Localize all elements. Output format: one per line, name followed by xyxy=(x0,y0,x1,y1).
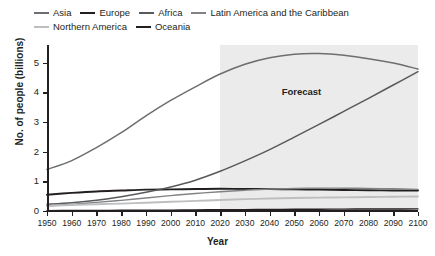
x-tick-2020 xyxy=(220,212,221,216)
series-lines xyxy=(47,45,418,211)
legend-label: Africa xyxy=(158,8,182,18)
series-line-europe xyxy=(47,189,418,195)
x-tick-2040 xyxy=(270,212,271,216)
legend-swatch-icon xyxy=(34,26,49,28)
y-tick-2 xyxy=(43,152,47,153)
legend-row-2: Northern AmericaOceania xyxy=(34,20,434,34)
x-tick-2000 xyxy=(171,212,172,216)
x-tick-label-2100: 2100 xyxy=(401,219,435,228)
x-tick-2010 xyxy=(195,212,196,216)
y-tick-4 xyxy=(43,92,47,93)
legend-item-northern-america[interactable]: Northern America xyxy=(34,22,127,32)
plot-area: Forecast xyxy=(47,45,418,211)
legend-item-latin-america-and-the-caribbean[interactable]: Latin America and the Caribbean xyxy=(191,8,348,18)
series-line-africa xyxy=(47,72,418,205)
legend-item-europe[interactable]: Europe xyxy=(80,8,130,18)
x-axis-line xyxy=(47,210,418,212)
legend-item-asia[interactable]: Asia xyxy=(34,8,71,18)
x-tick-1980 xyxy=(121,212,122,216)
legend-label: Oceania xyxy=(155,22,190,32)
legend-swatch-icon xyxy=(139,12,154,14)
y-tick-3 xyxy=(43,122,47,123)
y-tick-5 xyxy=(43,63,47,64)
legend-swatch-icon xyxy=(34,12,49,14)
x-tick-1970 xyxy=(96,212,97,216)
legend-swatch-icon xyxy=(191,12,206,14)
y-tick-1 xyxy=(43,181,47,182)
x-tick-2050 xyxy=(294,212,295,216)
population-line-chart: AsiaEuropeAfricaLatin America and the Ca… xyxy=(0,0,435,256)
x-tick-2090 xyxy=(393,212,394,216)
y-tick-label-0: 0 xyxy=(19,206,39,216)
legend-label: Europe xyxy=(99,8,130,18)
x-tick-1990 xyxy=(146,212,147,216)
legend-label: Asia xyxy=(53,8,71,18)
y-axis-line xyxy=(47,45,49,211)
legend-label: Latin America and the Caribbean xyxy=(210,8,348,18)
x-tick-1950 xyxy=(47,212,48,216)
legend-row-1: AsiaEuropeAfricaLatin America and the Ca… xyxy=(34,6,434,20)
chart-legend: AsiaEuropeAfricaLatin America and the Ca… xyxy=(34,6,434,34)
legend-item-oceania[interactable]: Oceania xyxy=(136,22,190,32)
x-tick-2100 xyxy=(418,212,419,216)
y-axis-title: No. of people (billions) xyxy=(14,22,25,162)
y-tick-label-1: 1 xyxy=(19,176,39,186)
x-tick-2080 xyxy=(369,212,370,216)
x-tick-1960 xyxy=(72,212,73,216)
x-tick-2070 xyxy=(344,212,345,216)
x-tick-2060 xyxy=(319,212,320,216)
x-axis-title: Year xyxy=(0,236,435,247)
x-tick-2030 xyxy=(245,212,246,216)
series-line-asia xyxy=(47,54,418,170)
legend-item-africa[interactable]: Africa xyxy=(139,8,182,18)
legend-swatch-icon xyxy=(80,12,95,14)
legend-label: Northern America xyxy=(53,22,127,32)
legend-swatch-icon xyxy=(136,26,151,28)
